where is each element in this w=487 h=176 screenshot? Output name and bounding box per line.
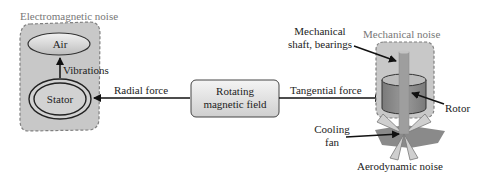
electromagnetic-noise-title: Electromagnetic noise [20, 10, 118, 22]
shaft-label-line2: shaft, bearings [285, 38, 355, 51]
shaft-shape [399, 51, 409, 135]
vibrations-label: Vibrations [63, 64, 109, 76]
rotating-field-label: Rotating magnetic field [191, 85, 279, 111]
cooling-fan-label: Cooling fan [312, 123, 352, 149]
shaft-bearings-label: Mechanical shaft, bearings [285, 25, 355, 51]
air-label: Air [40, 38, 80, 51]
rotor-label: Rotor [445, 102, 470, 114]
aerodynamic-noise-title: Aerodynamic noise [357, 160, 443, 172]
stator-label: Stator [35, 93, 85, 106]
radial-force-label: Radial force [114, 84, 168, 96]
fan-label-line2: fan [312, 136, 352, 149]
shaft-label-line1: Mechanical [285, 25, 355, 38]
tangential-force-label: Tangential force [290, 84, 362, 96]
mechanical-noise-title: Mechanical noise [363, 28, 440, 40]
rotating-field-line2: magnetic field [191, 98, 279, 111]
fan-label-line1: Cooling [312, 123, 352, 136]
rotating-field-line1: Rotating [191, 85, 279, 98]
